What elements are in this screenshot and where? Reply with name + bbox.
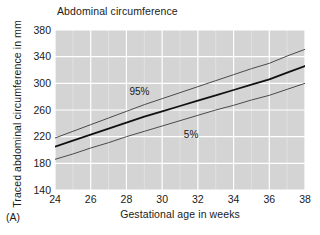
x-tick-label: 36 (254, 193, 284, 205)
chart-title: Abdominal circumference (57, 5, 178, 17)
y-tick-label: 340 (9, 51, 51, 62)
y-tick-label: 380 (9, 25, 51, 36)
y-tick-label: 180 (9, 158, 51, 169)
x-tick-label: 32 (183, 193, 213, 205)
x-tick-labels: 2426283032343638 (55, 193, 305, 207)
x-axis-title: Gestational age in weeks (55, 208, 305, 220)
x-tick-label: 38 (290, 193, 320, 205)
x-tick-label: 28 (111, 193, 141, 205)
plot-area (55, 30, 305, 190)
x-tick-label: 30 (147, 193, 177, 205)
y-tick-label: 260 (9, 105, 51, 116)
curve-label-5: 5% (184, 129, 198, 140)
grid-lines (55, 30, 305, 190)
curve-label-95: 95% (129, 86, 149, 97)
y-tick-label: 300 (9, 78, 51, 89)
chart-figure: Abdominal circumference Traced abdominal… (0, 0, 320, 235)
y-tick-label: 220 (9, 131, 51, 142)
plot-canvas (55, 30, 305, 190)
x-tick-label: 24 (40, 193, 70, 205)
x-tick-label: 34 (219, 193, 249, 205)
x-tick-label: 26 (76, 193, 106, 205)
